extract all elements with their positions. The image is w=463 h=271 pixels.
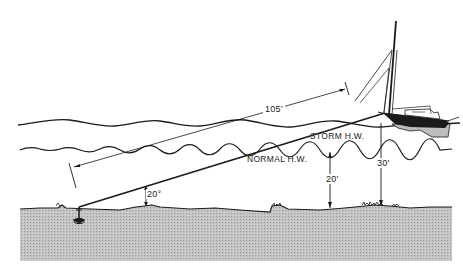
normal-high-water-label: NORMAL H.W. <box>247 154 307 164</box>
storm-high-water-label: STORM H.W. <box>310 131 364 141</box>
normal-depth-label: 20' <box>325 174 340 184</box>
storm-depth-label: 30' <box>376 158 391 168</box>
rode-angle-label: 20° <box>146 189 163 199</box>
seabed <box>20 202 452 261</box>
anchor-rode <box>79 113 385 207</box>
anchor-scope-diagram <box>0 0 463 271</box>
sailboat-icon <box>355 21 459 137</box>
normal-high-water-line <box>20 139 452 160</box>
rode-length-label: 105' <box>263 104 285 114</box>
rode-length-dimension <box>69 82 349 188</box>
